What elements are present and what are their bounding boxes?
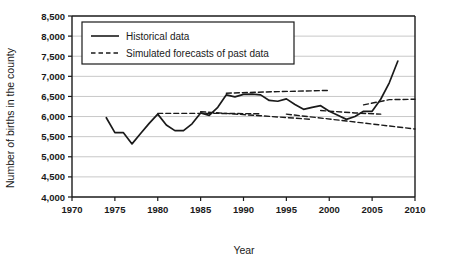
x-tick-label: 1995 bbox=[276, 204, 298, 215]
x-tick-label: 1975 bbox=[104, 204, 126, 215]
legend-label: Historical data bbox=[126, 31, 190, 42]
y-tick-label: 6,500 bbox=[41, 91, 65, 102]
y-tick-label: 4,500 bbox=[41, 171, 65, 182]
x-tick-label: 1990 bbox=[233, 204, 254, 215]
chart-container: 4,0004,5005,0005,5006,0006,5007,0007,500… bbox=[0, 0, 464, 261]
chart-legend: Historical dataSimulated forecasts of pa… bbox=[82, 22, 294, 64]
births-line-chart: 4,0004,5005,0005,5006,0006,5007,0007,500… bbox=[0, 0, 464, 261]
x-axis-title: Year bbox=[233, 244, 255, 256]
x-axis-tick-labels: 197019751980198519901995200020052010 bbox=[61, 204, 425, 215]
x-tick-label: 2010 bbox=[404, 204, 425, 215]
y-tick-label: 4,000 bbox=[41, 192, 65, 203]
y-tick-label: 8,500 bbox=[41, 11, 65, 22]
x-tick-label: 2000 bbox=[319, 204, 340, 215]
y-axis-title: Number of births in the county bbox=[4, 47, 16, 188]
y-tick-label: 7,000 bbox=[41, 71, 65, 82]
y-tick-label: 5,500 bbox=[41, 131, 65, 142]
x-tick-label: 2005 bbox=[362, 204, 384, 215]
y-tick-label: 7,500 bbox=[41, 51, 65, 62]
x-tick-label: 1985 bbox=[190, 204, 212, 215]
legend-label: Simulated forecasts of past data bbox=[126, 48, 269, 59]
x-tick-label: 1980 bbox=[147, 204, 168, 215]
y-tick-label: 8,000 bbox=[41, 31, 65, 42]
y-tick-label: 5,000 bbox=[41, 151, 65, 162]
x-tick-label: 1970 bbox=[61, 204, 82, 215]
y-tick-label: 6,000 bbox=[41, 111, 65, 122]
